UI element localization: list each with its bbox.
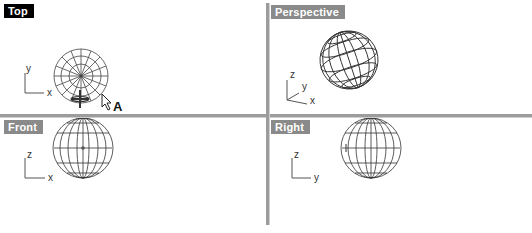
top-view-canvas: y x A [0,0,266,114]
viewport-top[interactable]: Top y x A [0,0,266,114]
axis-label-x: x [310,95,315,106]
axis-label-y: y [302,81,307,92]
axis-label-z: z [294,149,299,160]
axis-label-x: x [47,87,52,98]
viewport-front[interactable]: Front z x [0,118,266,233]
axis-icon [25,73,44,93]
front-view-canvas: z x [0,118,266,233]
mouse-cursor-icon [102,94,111,110]
axis-label-x: x [48,172,53,183]
gumball-marker [71,90,89,108]
gumball-marker [81,146,85,150]
axis-icon [292,158,311,178]
viewport-perspective[interactable]: Perspective z y x [269,0,532,114]
axis-label-z: z [290,69,295,80]
axis-label-z: z [27,149,32,160]
pointer-annotation-label: A [113,99,123,114]
sphere-wireframe [312,23,385,96]
axis-label-y: y [314,172,319,183]
sphere-wireframe [341,118,401,178]
perspective-view-canvas: z y x [269,0,532,114]
axis-icon [25,158,45,178]
viewport-divider-vertical[interactable] [266,3,270,225]
axis-label-y: y [26,63,31,74]
viewport-right[interactable]: Right z y [269,118,532,233]
right-view-canvas: z y [269,118,532,233]
